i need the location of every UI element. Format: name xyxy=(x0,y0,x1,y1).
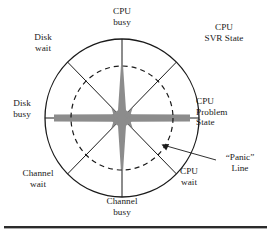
panic-leader-line xyxy=(163,145,216,160)
radar-diagram-svg xyxy=(0,0,271,235)
axis-spoke-channel-wait xyxy=(68,118,123,174)
kiviat-diagram-figure: CPU busy CPU SVR State CPU Problem State… xyxy=(0,0,271,235)
axis-spoke-cpu-wait xyxy=(122,118,177,174)
axis-spoke-disk-wait xyxy=(68,62,123,118)
panic-leader-arrowhead xyxy=(162,144,170,151)
axis-spoke-cpu-svr-state xyxy=(122,62,177,118)
bottom-rule xyxy=(4,226,267,228)
